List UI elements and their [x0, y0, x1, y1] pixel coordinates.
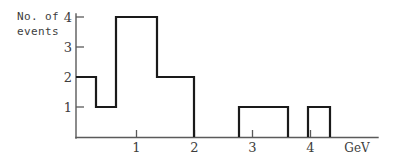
y-tick-label-1: 1	[64, 100, 72, 115]
y-tick-label-3: 3	[64, 40, 72, 55]
x-tick-label-3: 3	[248, 140, 256, 155]
plot-area: 4 3 2 1 1 2 3 4 GeV	[0, 0, 396, 157]
histogram-outline-main	[76, 17, 194, 137]
x-axis-unit-label: GeV	[344, 141, 370, 155]
x-tick-marks	[137, 130, 311, 137]
y-tick-label-4: 4	[64, 10, 72, 25]
y-tick-marks	[76, 17, 84, 107]
x-tick-label-2: 2	[190, 140, 198, 155]
x-tick-label-1: 1	[132, 140, 140, 155]
histogram-bar-4gev	[308, 107, 330, 137]
histogram-figure: No. of events 4 3 2 1 1 2 3 4 Ge	[0, 0, 396, 157]
x-tick-label-4: 4	[306, 140, 314, 155]
y-tick-label-2: 2	[64, 70, 72, 85]
histogram-bar-3gev	[239, 107, 288, 137]
